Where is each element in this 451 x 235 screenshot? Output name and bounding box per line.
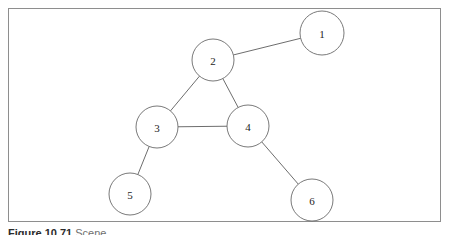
figure-container: 123456 Figure 10.71 Scene... (0, 0, 451, 235)
graph-node-3[interactable]: 3 (136, 106, 178, 148)
graph-node-1[interactable]: 1 (300, 11, 344, 55)
graph-node-4[interactable]: 4 (227, 105, 269, 147)
figure-caption-label: Figure 10.71 (8, 227, 72, 235)
graph-node-6[interactable]: 6 (291, 179, 333, 221)
graph-node-label-3: 3 (154, 122, 160, 134)
graph-edge-4-6 (262, 142, 299, 184)
graph-node-label-5: 5 (127, 189, 133, 201)
graph-node-2[interactable]: 2 (192, 39, 234, 81)
graph-node-label-6: 6 (309, 195, 315, 207)
graph-node-5[interactable]: 5 (109, 173, 151, 215)
graph-edge-2-3 (170, 76, 199, 111)
graph-node-label-2: 2 (210, 55, 216, 67)
figure-caption: Figure 10.71 Scene... (8, 227, 441, 235)
graph-edge-2-1 (233, 38, 300, 55)
graph-diagram: 123456 (0, 0, 451, 235)
graph-edge-3-4 (178, 126, 227, 127)
graph-edge-2-4 (223, 79, 238, 108)
graph-node-label-1: 1 (319, 28, 325, 40)
graph-nodes-layer: 123456 (109, 11, 344, 221)
graph-edge-3-5 (138, 146, 149, 174)
graph-node-label-4: 4 (245, 121, 251, 133)
figure-caption-text: Scene... (75, 227, 115, 235)
